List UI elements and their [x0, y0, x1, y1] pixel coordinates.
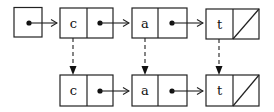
top-node-t-value: t — [217, 17, 223, 32]
top-node-c-value: c — [70, 16, 77, 31]
bottom-node-t-value: t — [217, 83, 223, 98]
null-slash-icon — [233, 9, 259, 39]
top-node-a-value: a — [141, 16, 149, 31]
bottom-node-a-value: a — [141, 83, 149, 98]
linked-list-diagram: c a t c a t — [0, 0, 274, 112]
null-slash-icon — [233, 75, 259, 106]
bottom-node-c-value: c — [70, 83, 77, 98]
